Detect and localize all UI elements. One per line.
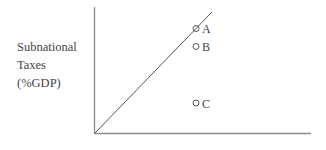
reference-line [95,12,212,133]
point-c-marker [193,100,199,106]
point-b-label: B [202,40,210,54]
point-b-marker [193,44,199,50]
point-a-label: A [202,22,211,36]
chart-plot: A B C [0,0,326,150]
point-c-label: C [202,97,210,111]
